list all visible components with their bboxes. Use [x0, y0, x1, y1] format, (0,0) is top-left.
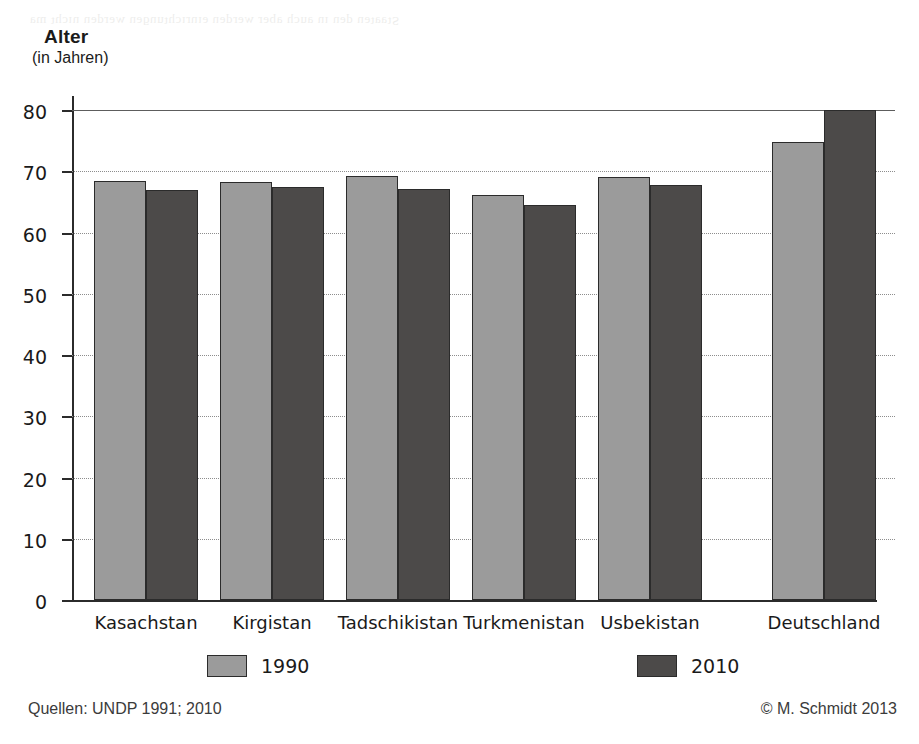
y-tick-70: 70	[62, 171, 72, 173]
bar-1990-turkmenistan[interactable]	[472, 195, 524, 600]
bar-1990-kirgistan[interactable]	[220, 182, 272, 600]
y-tick-label-70: 70	[23, 164, 47, 183]
y-tick-50: 50	[62, 294, 72, 296]
x-axis-label-usbekistan: Usbekistan	[600, 612, 699, 633]
bar-2010-turkmenistan[interactable]	[524, 205, 576, 600]
source-note: Quellen: UNDP 1991; 2010	[28, 700, 222, 718]
x-axis-label-kirgistan: Kirgistan	[232, 612, 311, 633]
x-axis-label-tadschikistan: Tadschikistan	[338, 612, 458, 633]
y-tick-60: 60	[62, 233, 72, 235]
legend-item-1990[interactable]: 1990	[207, 655, 309, 677]
y-tick-label-30: 30	[23, 409, 47, 428]
bar-2010-tadschikistan[interactable]	[398, 189, 450, 600]
chart-area: 01020304050607080 KasachstanKirgistanTad…	[0, 0, 919, 744]
bar-1990-deutschland[interactable]	[772, 142, 824, 600]
y-tick-40: 40	[62, 355, 72, 357]
y-tick-label-50: 50	[23, 286, 47, 305]
legend-swatch-1990	[207, 655, 247, 677]
x-axis-label-turkmenistan: Turkmenistan	[463, 612, 584, 633]
legend-item-2010[interactable]: 2010	[637, 655, 739, 677]
bar-group: Kirgistan	[220, 110, 324, 600]
y-tick-80: 80	[62, 110, 72, 112]
y-tick-20: 20	[62, 478, 72, 480]
y-tick-label-60: 60	[23, 225, 47, 244]
gridline-0	[72, 600, 877, 602]
y-tick-label-80: 80	[23, 103, 47, 122]
y-tick-label-20: 20	[23, 470, 47, 489]
bar-group: Deutschland	[772, 110, 876, 600]
legend-label-1990: 1990	[261, 655, 309, 677]
bar-1990-usbekistan[interactable]	[598, 177, 650, 600]
bar-2010-kasachstan[interactable]	[146, 190, 198, 600]
copyright-note: © M. Schmidt 2013	[761, 700, 897, 718]
bar-2010-kirgistan[interactable]	[272, 187, 324, 600]
y-tick-label-10: 10	[23, 531, 47, 550]
x-axis-label-kasachstan: Kasachstan	[94, 612, 197, 633]
bar-group: Tadschikistan	[346, 110, 450, 600]
legend-label-2010: 2010	[691, 655, 739, 677]
x-axis-label-deutschland: Deutschland	[768, 612, 881, 633]
bar-2010-usbekistan[interactable]	[650, 185, 702, 600]
chart-footer: Quellen: UNDP 1991; 2010 © M. Schmidt 20…	[28, 700, 897, 718]
bar-1990-kasachstan[interactable]	[94, 181, 146, 600]
y-tick-label-0: 0	[35, 593, 47, 612]
bar-group: Turkmenistan	[472, 110, 576, 600]
bar-group: Usbekistan	[598, 110, 702, 600]
bar-1990-tadschikistan[interactable]	[346, 176, 398, 600]
chart-legend: 1990 2010	[72, 655, 877, 683]
y-tick-label-40: 40	[23, 348, 47, 367]
y-tick-10: 10	[62, 539, 72, 541]
plot-region: 01020304050607080 KasachstanKirgistanTad…	[72, 110, 877, 600]
y-tick-30: 30	[62, 416, 72, 418]
bar-2010-deutschland[interactable]	[824, 110, 876, 600]
bar-group: Kasachstan	[94, 110, 198, 600]
y-tick-0: 0	[62, 600, 72, 602]
legend-swatch-2010	[637, 655, 677, 677]
